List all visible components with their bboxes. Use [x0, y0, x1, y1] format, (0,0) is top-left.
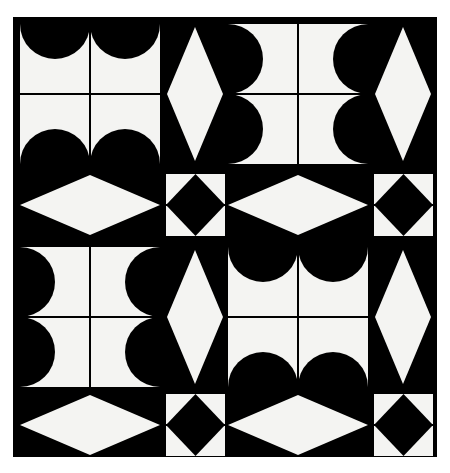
- arc-tile: [20, 24, 90, 94]
- arc-tile: [90, 317, 160, 387]
- quilt-panel: [13, 17, 437, 457]
- arc-tile: [228, 24, 298, 94]
- arc-tile: [298, 94, 368, 164]
- arc-tile: [298, 317, 368, 387]
- arc-tile: [90, 247, 160, 317]
- arc-tile: [228, 94, 298, 164]
- artwork-stage: Geometric Quilt Pattern Black and white …: [0, 0, 450, 473]
- arc-tile: [298, 24, 368, 94]
- arc-tile: [90, 94, 160, 164]
- arc-tile: [298, 247, 368, 317]
- arc-tile: [20, 94, 90, 164]
- arc-tile: [228, 317, 298, 387]
- arc-tile: [90, 24, 160, 94]
- arc-tile: [20, 317, 90, 387]
- quilt-canvas: [13, 17, 437, 457]
- arc-tile: [20, 247, 90, 317]
- arc-tile: [228, 247, 298, 317]
